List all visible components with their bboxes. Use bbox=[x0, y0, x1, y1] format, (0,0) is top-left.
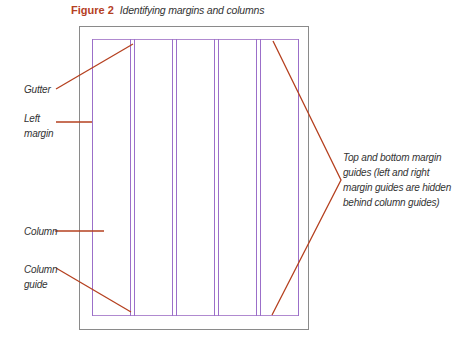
column-guide-label: Column guide bbox=[24, 262, 57, 292]
gutter-callout bbox=[56, 44, 133, 89]
left-margin-label: Left margin bbox=[24, 111, 53, 141]
page-outline bbox=[80, 27, 309, 330]
margin-guides-label: Top and bottom margin guides (left and r… bbox=[343, 150, 451, 210]
margin-guides bbox=[93, 40, 299, 316]
column-label: Column bbox=[24, 224, 57, 239]
column-guide-callout bbox=[56, 268, 131, 312]
gutter-label: Gutter bbox=[24, 82, 51, 97]
column-guides bbox=[93, 39, 299, 316]
margin-guides-callout bbox=[272, 41, 341, 315]
